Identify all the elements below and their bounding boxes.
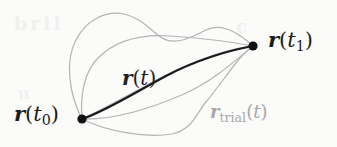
label-r-of-t-close-paren: ) (148, 66, 156, 90)
label-r-trial-subscript: trial (219, 110, 246, 125)
label-r-of-t-vector: r (122, 66, 133, 90)
endpoint-dot-start (77, 114, 86, 123)
endpoint-dot-end (248, 41, 257, 50)
label-r-t0-t: t (33, 102, 41, 126)
label-r-t1: r(t1) (268, 29, 313, 53)
label-r-t0: r(t0) (14, 103, 59, 127)
label-r-t0-vector: r (14, 101, 25, 126)
label-r-t1-subscript: 1 (296, 38, 305, 54)
label-r-of-t: r(t) (122, 68, 156, 88)
label-r-trial-close-paren: ) (260, 101, 267, 122)
label-r-t1-t: t (287, 28, 295, 52)
variational-paths-figure: bril c u r(t1) r(t0) r(t) rtrial(t) (0, 0, 337, 147)
label-r-t1-close-paren: ) (305, 28, 313, 52)
label-r-t0-subscript: 0 (42, 112, 51, 128)
label-r-t1-vector: r (268, 27, 279, 52)
label-r-trial: rtrial(t) (210, 103, 267, 124)
label-r-t0-close-paren: ) (51, 102, 59, 126)
